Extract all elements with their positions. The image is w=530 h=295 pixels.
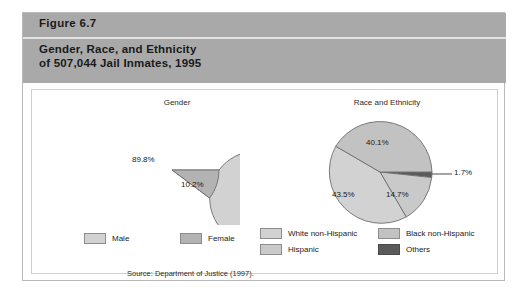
legend-swatch-female: [180, 233, 202, 244]
legend-label-others: Others: [406, 245, 430, 254]
legend-label-female: Female: [208, 234, 235, 243]
legend-label-white-non-hispanic: White non-Hispanic: [288, 229, 357, 238]
race-label-black-non-hispanic: 40.1%: [366, 138, 389, 147]
legend-item-others[interactable]: Others: [378, 244, 430, 255]
legend-label-hispanic: Hispanic: [288, 245, 319, 254]
plot-panel: Gender 89.8% 10.2% Male Female: [31, 89, 498, 274]
legend-item-male[interactable]: Male: [84, 233, 180, 244]
source-note: Source: Department of Justice (1997).: [127, 269, 254, 278]
legend-swatch-black-non-hispanic: [378, 228, 400, 239]
legend-label-male: Male: [112, 234, 129, 243]
legend-item-black-non-hispanic[interactable]: Black non-Hispanic: [378, 228, 474, 239]
legend-swatch-male: [84, 233, 106, 244]
legend-item-white-non-hispanic[interactable]: White non-Hispanic: [260, 228, 378, 239]
race-label-others: 1.7%: [454, 168, 472, 177]
gender-chart-title: Gender: [122, 98, 232, 107]
race-label-hispanic: 14.7%: [386, 190, 409, 199]
legend-item-hispanic[interactable]: Hispanic: [260, 244, 378, 255]
race-pie-chart: 40.1% 1.7% 14.7% 43.5%: [310, 112, 500, 232]
gender-label-male: 89.8%: [132, 155, 155, 164]
figure-title-line-2: of 507,044 Jail Inmates, 1995: [39, 56, 201, 70]
legend-swatch-others: [378, 244, 400, 255]
race-label-white-non-hispanic: 43.5%: [332, 190, 355, 199]
race-legend: White non-Hispanic Black non-Hispanic Hi…: [260, 228, 496, 260]
race-chart-title: Race and Ethnicity: [332, 98, 442, 107]
figure-frame: Figure 6.7 Gender, Race, and Ethnicity o…: [22, 12, 505, 281]
gender-label-female: 10.2%: [181, 180, 204, 189]
legend-item-female[interactable]: Female: [180, 233, 235, 244]
figure-title: Gender, Race, and Ethnicity of 507,044 J…: [39, 42, 201, 70]
gender-pie-svg: [110, 115, 240, 225]
figure-number: Figure 6.7: [39, 17, 96, 29]
header-divider-rule: [23, 37, 506, 39]
legend-swatch-hispanic: [260, 244, 282, 255]
legend-swatch-white-non-hispanic: [260, 228, 282, 239]
legend-row: Male Female: [84, 233, 264, 244]
gender-legend: Male Female: [84, 233, 264, 249]
gender-pie-chart: 89.8% 10.2%: [110, 115, 240, 225]
figure-title-line-1: Gender, Race, and Ethnicity: [39, 42, 201, 56]
figure-header-band: Figure 6.7 Gender, Race, and Ethnicity o…: [23, 13, 506, 83]
legend-label-black-non-hispanic: Black non-Hispanic: [406, 229, 474, 238]
legend-row: White non-Hispanic Black non-Hispanic: [260, 228, 496, 239]
legend-row: Hispanic Others: [260, 244, 496, 255]
